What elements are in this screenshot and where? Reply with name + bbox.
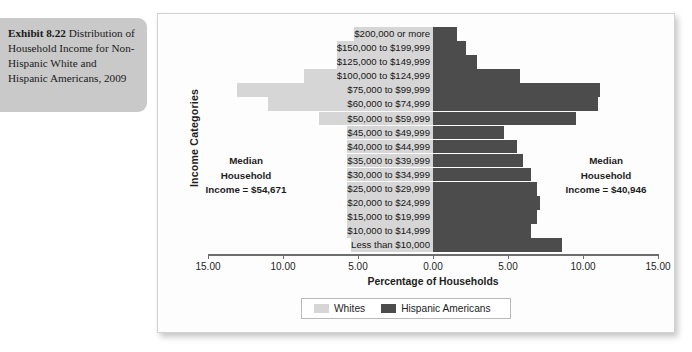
category-label: $100,000 to $124,999 bbox=[337, 69, 433, 83]
plot-area: $200,000 or more$150,000 to $199,999$125… bbox=[208, 27, 658, 252]
median-whites-line1: Median bbox=[186, 154, 306, 169]
category-label: $20,000 to $24,999 bbox=[347, 196, 433, 210]
median-whites-line3: Income = $54,671 bbox=[186, 183, 306, 198]
x-axis-tick bbox=[358, 254, 359, 259]
bar-hispanic bbox=[433, 97, 598, 111]
median-hispanic-line1: Median bbox=[546, 154, 666, 169]
bar-hispanic bbox=[433, 112, 576, 126]
chart-row: $200,000 or more bbox=[208, 27, 658, 41]
chart-row: $125,000 to $149,999 bbox=[208, 55, 658, 69]
category-label: $150,000 to $199,999 bbox=[337, 41, 433, 55]
category-label: $10,000 to $14,999 bbox=[347, 224, 433, 238]
x-axis-tick bbox=[583, 254, 584, 259]
bar-hispanic bbox=[433, 69, 520, 83]
bar-hispanic bbox=[433, 224, 531, 238]
bar-hispanic bbox=[433, 126, 504, 140]
category-label: $15,000 to $19,999 bbox=[347, 210, 433, 224]
legend-swatch-hispanic-icon bbox=[381, 304, 396, 313]
category-label: $40,000 to $44,999 bbox=[347, 140, 433, 154]
legend-item-hispanic: Hispanic Americans bbox=[381, 303, 490, 314]
bar-hispanic bbox=[433, 168, 531, 182]
category-label: $45,000 to $49,999 bbox=[347, 126, 433, 140]
category-label: $60,000 to $74,999 bbox=[347, 97, 433, 111]
bar-hispanic bbox=[433, 140, 517, 154]
x-axis-tick-label: 10.00 bbox=[253, 261, 313, 272]
chart-row: $45,000 to $49,999 bbox=[208, 126, 658, 140]
bar-hispanic bbox=[433, 41, 466, 55]
bar-hispanic bbox=[433, 182, 537, 196]
category-label: $25,000 to $29,999 bbox=[347, 182, 433, 196]
bar-hispanic bbox=[433, 154, 523, 168]
legend-label-hispanic: Hispanic Americans bbox=[401, 303, 490, 314]
x-axis-tick-label: 0.00 bbox=[403, 261, 463, 272]
x-axis-tick bbox=[433, 254, 434, 259]
x-axis-tick-label: 5.00 bbox=[328, 261, 388, 272]
bar-hispanic bbox=[433, 196, 540, 210]
chart-row: $15,000 to $19,999 bbox=[208, 210, 658, 224]
bar-hispanic bbox=[433, 83, 600, 97]
bar-hispanic bbox=[433, 210, 537, 224]
chart-legend: Whites Hispanic Americans bbox=[301, 298, 511, 319]
category-label: $200,000 or more bbox=[354, 27, 433, 41]
exhibit-caption: Exhibit 8.22 Distribution of Household I… bbox=[0, 18, 147, 112]
chart-row: $40,000 to $44,999 bbox=[208, 140, 658, 154]
category-label: $75,000 to $99,999 bbox=[347, 83, 433, 97]
chart-row: $60,000 to $74,999 bbox=[208, 97, 658, 111]
x-axis-tick-label: 5.00 bbox=[478, 261, 538, 272]
category-label: $30,000 to $34,999 bbox=[347, 168, 433, 182]
category-label: $125,000 to $149,999 bbox=[337, 55, 433, 69]
category-label: $50,000 to $59,999 bbox=[347, 112, 433, 126]
bar-hispanic bbox=[433, 55, 477, 69]
bar-hispanic bbox=[433, 27, 457, 41]
median-annotation-whites: Median Household Income = $54,671 bbox=[186, 154, 306, 198]
median-annotation-hispanic: Median Household Income = $40,946 bbox=[546, 154, 666, 198]
chart-row: $10,000 to $14,999 bbox=[208, 224, 658, 238]
x-axis-tick-label: 15.00 bbox=[178, 261, 238, 272]
x-axis-tick-labels: 15.0010.005.000.005.0010.0015.00 bbox=[208, 261, 658, 275]
chart-row: $50,000 to $59,999 bbox=[208, 112, 658, 126]
chart-panel: Income Categories $200,000 or more$150,0… bbox=[157, 13, 675, 333]
legend-label-whites: Whites bbox=[334, 303, 365, 314]
chart-row: $100,000 to $124,999 bbox=[208, 69, 658, 83]
median-hispanic-line2: Household bbox=[546, 169, 666, 184]
chart-row: $20,000 to $24,999 bbox=[208, 196, 658, 210]
median-whites-line2: Household bbox=[186, 169, 306, 184]
legend-swatch-whites-icon bbox=[314, 304, 329, 313]
exhibit-number: Exhibit 8.22 bbox=[8, 27, 66, 39]
x-axis-tick-label: 15.00 bbox=[628, 261, 688, 272]
x-axis-tick bbox=[658, 254, 659, 259]
x-axis-tick-label: 10.00 bbox=[553, 261, 613, 272]
chart-row: $75,000 to $99,999 bbox=[208, 83, 658, 97]
category-label: Less than $10,000 bbox=[351, 238, 433, 252]
bar-hispanic bbox=[433, 238, 562, 252]
median-hispanic-line3: Income = $40,946 bbox=[546, 183, 666, 198]
legend-item-whites: Whites bbox=[314, 303, 365, 314]
chart-row: $150,000 to $199,999 bbox=[208, 41, 658, 55]
x-axis-line bbox=[208, 254, 658, 256]
chart-row: Less than $10,000 bbox=[208, 238, 658, 252]
x-axis-title: Percentage of Households bbox=[208, 276, 658, 287]
x-axis-tick bbox=[283, 254, 284, 259]
x-axis-tick bbox=[208, 254, 209, 259]
category-label: $35,000 to $39,999 bbox=[347, 154, 433, 168]
x-axis-tick bbox=[508, 254, 509, 259]
